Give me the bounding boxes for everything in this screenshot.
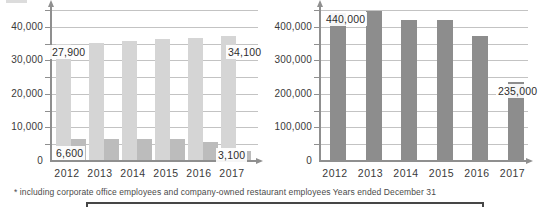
- x-axis-category-label: 2015: [148, 167, 184, 179]
- bar-2016-series1: [472, 36, 488, 161]
- x-axis-category-label: 2017: [495, 167, 531, 179]
- gridline: [50, 10, 258, 11]
- data-value-label: 34,100: [226, 45, 263, 59]
- employees-bar-chart-right: 400,000300,000200,000100,000020122013201…: [270, 0, 541, 185]
- employees-bar-chart-left: 40,00030,00020,00010,0000201220132014201…: [0, 0, 270, 185]
- x-axis-category-label: 2013: [82, 167, 118, 179]
- gridline: [319, 44, 528, 45]
- data-value-label: 6,600: [54, 146, 85, 160]
- y-axis-tick-label: 40,000: [3, 21, 43, 33]
- x-axis-category-label: 2016: [459, 167, 495, 179]
- cropped-element-sliver: [6, 0, 27, 3]
- bar-2014-series1: [401, 20, 417, 161]
- x-axis-category-label: 2014: [115, 167, 151, 179]
- data-value-label: 440,000: [324, 12, 367, 26]
- x-axis-category-label: 2017: [214, 167, 250, 179]
- y-axis-line: [50, 7, 52, 161]
- bar-2015-series1: [155, 39, 170, 161]
- bar-2014-series2: [137, 139, 152, 161]
- data-value-label: 27,900: [50, 45, 87, 59]
- bar-2015-series1: [437, 20, 453, 161]
- x-axis-arrow-icon: [526, 158, 533, 164]
- y-axis-tick-label: 0: [3, 155, 43, 167]
- cropped-bottom-box: [86, 202, 484, 207]
- gridline: [319, 127, 528, 128]
- y-axis-tick-label: 400,000: [273, 21, 312, 33]
- gridline: [319, 60, 528, 61]
- x-axis-category-label: 2015: [424, 167, 460, 179]
- bar-2016-series1: [188, 38, 203, 161]
- bar-2013-series2: [104, 139, 119, 161]
- y-axis-tick-label: 10,000: [3, 121, 43, 133]
- y-axis-tick-label: 30,000: [3, 54, 43, 66]
- bar-2013-series1: [89, 43, 104, 161]
- bar-2012-series1: [330, 13, 346, 161]
- y-axis-line: [319, 7, 321, 161]
- x-axis-category-label: 2014: [388, 167, 424, 179]
- data-value-label: 3,100: [216, 148, 247, 162]
- footnote: * including corporate office employees a…: [14, 187, 436, 197]
- bar-2013-series1: [366, 11, 382, 161]
- y-axis-arrow-icon: [48, 0, 54, 7]
- gridline: [319, 77, 528, 78]
- x-axis-category-label: 2013: [353, 167, 389, 179]
- x-axis-arrow-icon: [256, 158, 263, 164]
- bar-2012-series1: [56, 44, 71, 161]
- x-axis-category-label: 2016: [181, 167, 217, 179]
- gridline: [319, 144, 528, 145]
- gridline: [319, 111, 528, 112]
- y-axis-tick-label: 100,000: [273, 121, 312, 133]
- bar-2014-series1: [122, 41, 137, 161]
- x-axis-category-label: 2012: [317, 167, 353, 179]
- gridline: [319, 10, 528, 11]
- y-axis-tick-label: 200,000: [273, 88, 312, 100]
- y-axis-tick-label: 20,000: [3, 88, 43, 100]
- y-axis-tick-label: 0: [273, 155, 312, 167]
- x-axis-category-label: 2012: [49, 167, 85, 179]
- data-value-label: 235,000: [496, 84, 539, 98]
- bar-2015-series2: [170, 139, 185, 161]
- y-axis-tick-label: 300,000: [273, 54, 312, 66]
- gridline: [319, 27, 528, 28]
- gridline: [50, 27, 258, 28]
- x-axis-line: [319, 160, 528, 162]
- y-axis-arrow-icon: [317, 0, 323, 7]
